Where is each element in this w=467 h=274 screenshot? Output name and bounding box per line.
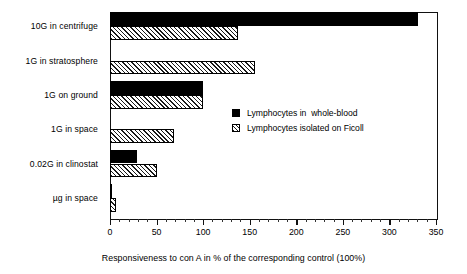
x-axis-tick <box>203 219 204 225</box>
legend-swatch-solid-icon <box>232 109 240 117</box>
x-axis-minor-tick <box>138 219 139 222</box>
bar-chart: 10G in centrifuge1G in stratosphere1G on… <box>0 0 467 274</box>
bar-ficoll <box>110 164 157 178</box>
x-axis-tick-label: 250 <box>328 227 358 237</box>
x-axis-minor-tick <box>399 219 400 222</box>
x-axis-minor-tick <box>231 219 232 222</box>
x-axis-minor-tick <box>119 219 120 222</box>
x-axis-minor-tick <box>361 219 362 222</box>
x-axis-minor-tick <box>324 219 325 222</box>
x-axis-minor-tick <box>278 219 279 222</box>
bar-whole-blood <box>110 12 418 26</box>
legend-item: Lymphocytes in whole-blood <box>232 106 432 119</box>
x-axis-tick <box>110 219 111 225</box>
x-axis-minor-tick <box>380 219 381 222</box>
x-axis-minor-tick <box>166 219 167 222</box>
x-axis-tick <box>157 219 158 225</box>
bar-whole-blood <box>110 81 203 95</box>
y-axis-label: 1G in space <box>0 124 98 134</box>
x-axis-minor-tick <box>147 219 148 222</box>
x-axis-minor-tick <box>306 219 307 222</box>
legend-swatch-hatched-icon <box>232 124 240 132</box>
x-axis-minor-tick <box>315 219 316 222</box>
legend-label: Lymphocytes in whole-blood <box>247 108 358 118</box>
x-axis-tick <box>296 219 297 225</box>
bar-whole-blood <box>110 184 112 198</box>
x-axis-tick <box>389 219 390 225</box>
bar-ficoll <box>110 129 174 143</box>
y-axis-label: 0.02G in clinostat <box>0 159 98 169</box>
x-axis-minor-tick <box>194 219 195 222</box>
x-axis-minor-tick <box>427 219 428 222</box>
x-axis-tick-label: 350 <box>421 227 451 237</box>
x-axis-tick <box>250 219 251 225</box>
x-axis-minor-tick <box>287 219 288 222</box>
legend-label: Lymphocytes isolated on Ficoll <box>247 123 364 133</box>
x-axis-minor-tick <box>212 219 213 222</box>
legend-item: Lymphocytes isolated on Ficoll <box>232 121 432 134</box>
y-axis-label: 10G in centrifuge <box>0 21 98 31</box>
x-axis-tick-label: 200 <box>281 227 311 237</box>
y-axis-label: 1G in stratosphere <box>0 56 98 66</box>
y-axis-label: 1G on ground <box>0 90 98 100</box>
x-axis-tick-label: 300 <box>374 227 404 237</box>
y-axis-label: µg in space <box>0 193 98 203</box>
y-axis-category-labels: 10G in centrifuge1G in stratosphere1G on… <box>0 12 103 218</box>
x-axis-tick-label: 150 <box>235 227 265 237</box>
x-axis-minor-tick <box>268 219 269 222</box>
x-axis-minor-tick <box>417 219 418 222</box>
legend: Lymphocytes in whole-bloodLymphocytes is… <box>232 106 432 136</box>
x-axis-minor-tick <box>175 219 176 222</box>
x-axis: 050100150200250300350 <box>110 219 436 220</box>
x-axis-minor-tick <box>129 219 130 222</box>
x-axis-minor-tick <box>185 219 186 222</box>
x-axis-title: Responsiveness to con A in % of the corr… <box>0 253 467 264</box>
x-axis-tick <box>343 219 344 225</box>
bar-ficoll <box>110 61 255 75</box>
x-axis-minor-tick <box>240 219 241 222</box>
x-axis-tick-label: 50 <box>142 227 172 237</box>
x-axis-tick <box>436 219 437 225</box>
bar-ficoll <box>110 95 203 109</box>
x-axis-tick-label: 100 <box>188 227 218 237</box>
bar-ficoll <box>110 26 238 40</box>
x-axis-minor-tick <box>352 219 353 222</box>
x-axis-tick-label: 0 <box>95 227 125 237</box>
x-axis-minor-tick <box>334 219 335 222</box>
x-axis-minor-tick <box>259 219 260 222</box>
x-axis-minor-tick <box>371 219 372 222</box>
bar-whole-blood <box>110 150 137 164</box>
x-axis-minor-tick <box>408 219 409 222</box>
x-axis-minor-tick <box>222 219 223 222</box>
bar-ficoll <box>110 198 116 212</box>
